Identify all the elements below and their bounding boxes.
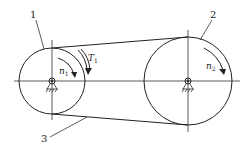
leader-line-2	[200, 20, 212, 40]
label-n2: n2	[206, 61, 216, 72]
belt-drive-diagram: 1 2 3 n1 T1 n2	[0, 0, 252, 152]
leader-line-1	[36, 20, 44, 49]
label-pulley-2: 2	[210, 9, 216, 20]
leader-line-3	[50, 117, 87, 137]
label-t1: T1	[88, 53, 98, 64]
label-belt-3: 3	[41, 133, 47, 144]
label-pulley-1: 1	[30, 9, 36, 20]
label-n1: n1	[59, 66, 69, 77]
